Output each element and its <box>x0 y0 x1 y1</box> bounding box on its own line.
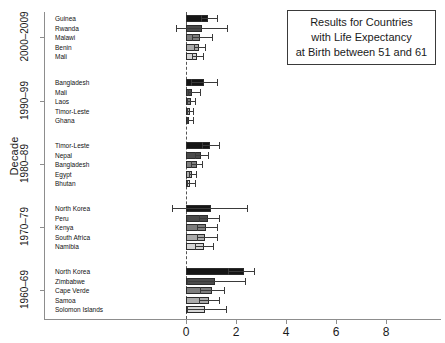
error-cap-low <box>202 142 203 149</box>
error-bar <box>199 218 219 219</box>
error-cap-high <box>219 142 220 149</box>
error-cap-high <box>205 44 206 51</box>
error-bar <box>202 145 219 146</box>
error-bar <box>189 174 197 175</box>
error-bar <box>191 164 202 165</box>
error-cap-high <box>226 306 227 313</box>
error-cap-low <box>188 89 189 96</box>
error-cap-high <box>254 268 255 275</box>
country-label: Laos <box>55 97 69 106</box>
country-label: Malawi <box>55 33 75 42</box>
error-cap-low <box>197 234 198 241</box>
error-cap-low <box>191 79 192 86</box>
x-tick <box>286 319 287 324</box>
country-label: North Korea <box>55 204 90 213</box>
error-bar <box>228 271 254 272</box>
error-bar <box>197 237 217 238</box>
country-label: Mali <box>55 88 67 97</box>
error-cap-low <box>172 205 173 212</box>
error-cap-high <box>195 98 196 105</box>
error-cap-low <box>187 278 188 285</box>
error-bar <box>194 47 205 48</box>
country-label: Egypt <box>55 170 72 179</box>
error-bar <box>176 28 227 29</box>
error-cap-low <box>187 98 188 105</box>
x-tick-label: 8 <box>371 325 401 339</box>
country-label: Bangladesh <box>55 78 89 87</box>
x-tick-label: 2 <box>221 325 251 339</box>
x-tick <box>236 319 237 324</box>
country-label: Timor-Leste <box>55 107 89 116</box>
error-cap-high <box>217 234 218 241</box>
error-cap-low <box>194 44 195 51</box>
error-cap-high <box>193 108 194 115</box>
error-bar <box>191 82 218 83</box>
error-cap-low <box>197 224 198 231</box>
country-label: Bhutan <box>55 179 76 188</box>
error-cap-high <box>212 34 213 41</box>
country-label: Bangladesh <box>55 160 89 169</box>
x-tick <box>186 319 187 324</box>
error-cap-low <box>199 297 200 304</box>
results-title-box: Results for Countries with Life Expectan… <box>287 10 436 65</box>
error-cap-high <box>227 25 228 32</box>
title-line-1: Results for Countries <box>310 16 413 29</box>
error-bar <box>187 183 195 184</box>
error-cap-low <box>189 171 190 178</box>
error-cap-high <box>213 243 214 250</box>
country-label: Namibia <box>55 242 79 251</box>
country-label: Solomon Islands <box>55 305 103 314</box>
error-bar <box>195 155 208 156</box>
error-cap-low <box>195 152 196 159</box>
error-cap-low <box>192 53 193 60</box>
country-label: Rwanda <box>55 24 79 33</box>
x-tick-label: 0 <box>171 325 201 339</box>
error-cap-high <box>217 224 218 231</box>
error-bar <box>172 208 247 209</box>
error-bar <box>195 246 213 247</box>
title-line-2: with Life Expectancy <box>311 31 411 44</box>
error-cap-high <box>247 205 248 212</box>
error-cap-high <box>217 79 218 86</box>
error-cap-low <box>187 306 188 313</box>
error-cap-high <box>245 278 246 285</box>
error-cap-low <box>187 108 188 115</box>
error-cap-high <box>208 152 209 159</box>
error-bar <box>197 227 217 228</box>
error-cap-high <box>202 161 203 168</box>
error-cap-low <box>187 117 188 124</box>
error-cap-high <box>200 89 201 96</box>
error-cap-low <box>228 268 229 275</box>
title-line-3: at Birth between 51 and 61 <box>296 46 427 59</box>
country-label: Ghana <box>55 116 75 125</box>
error-cap-low <box>187 180 188 187</box>
error-cap-high <box>219 215 220 222</box>
error-bar <box>187 309 226 310</box>
error-bar <box>200 290 224 291</box>
error-bar <box>187 101 195 102</box>
x-tick-label: 6 <box>321 325 351 339</box>
country-label: Guinea <box>55 14 76 23</box>
error-cap-low <box>200 287 201 294</box>
error-bar <box>192 56 203 57</box>
error-cap-high <box>217 15 218 22</box>
x-tick <box>336 319 337 324</box>
country-label: Kenya <box>55 223 73 232</box>
error-bar <box>199 300 219 301</box>
country-label: North Korea <box>55 267 90 276</box>
error-bar <box>188 92 201 93</box>
error-cap-high <box>195 180 196 187</box>
x-tick <box>386 319 387 324</box>
error-cap-high <box>196 171 197 178</box>
chart-canvas: Decade 2000–20091990–991980–891970–79196… <box>0 0 445 343</box>
country-label: Cape Verde <box>55 286 89 295</box>
country-label: Zimbabwe <box>55 277 85 286</box>
country-label: Samoa <box>55 296 76 305</box>
error-cap-high <box>203 53 204 60</box>
error-cap-low <box>191 161 192 168</box>
country-label: Benin <box>55 43 72 52</box>
x-axis-line <box>44 319 441 320</box>
error-cap-high <box>193 117 194 124</box>
error-cap-low <box>199 215 200 222</box>
x-tick-label: 4 <box>271 325 301 339</box>
